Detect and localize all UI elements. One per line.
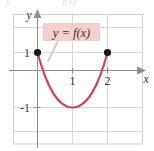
tick-label-y-one: 1: [24, 46, 30, 60]
endpoint-dot-left: [34, 49, 41, 56]
graph-canvas: y = f(x) y x 1 -1 1 2: [0, 0, 154, 151]
tick-label-x-two: 2: [105, 74, 111, 88]
y-axis-arrowhead: [34, 9, 42, 18]
callout-label: y = f(x): [43, 23, 100, 41]
graph-figure: y = f(x) y x 1 -1 1 2: [0, 0, 154, 151]
endpoint-dot-right: [104, 49, 111, 56]
x-axis-label: x: [142, 73, 149, 85]
tick-label-y-negative-one: -1: [20, 101, 30, 115]
tick-label-x-one: 1: [70, 74, 76, 88]
y-axis-label: y: [25, 9, 32, 22]
callout-text: y = f(x): [51, 26, 91, 40]
